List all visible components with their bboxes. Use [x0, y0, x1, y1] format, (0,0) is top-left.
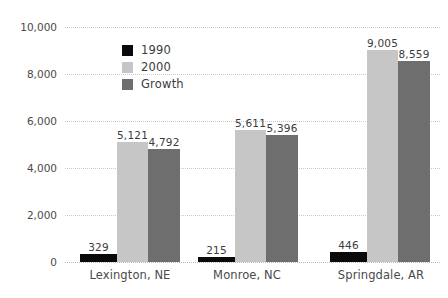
- y-axis-tick-label: 0: [0, 256, 57, 268]
- legend-label-1990: 1990: [141, 43, 171, 57]
- y-axis-tick-label: 2,000: [0, 209, 57, 221]
- legend-swatch-growth: [122, 79, 133, 90]
- legend-item-2000: 2000: [122, 59, 184, 75]
- y-axis-tick-label: 10,000: [0, 21, 57, 33]
- bar-2000-2: [367, 50, 398, 262]
- bar-value-label: 446: [338, 239, 359, 251]
- bar-1990-1: [198, 257, 235, 262]
- y-axis-tick-label: 4,000: [0, 162, 57, 174]
- bar-chart: 3295,1214,7922155,6115,3964469,0058,559 …: [0, 0, 448, 298]
- bar-growth-1: [266, 135, 298, 262]
- bar-growth-0: [148, 149, 180, 262]
- gridline: [65, 262, 440, 263]
- bar-value-label: 215: [206, 244, 227, 256]
- x-axis-category-label: Springdale, AR: [338, 268, 424, 282]
- legend-item-growth: Growth: [122, 76, 184, 92]
- legend-item-1990: 1990: [122, 42, 184, 58]
- legend-label-2000: 2000: [141, 60, 171, 74]
- bar-value-label: 8,559: [398, 48, 429, 60]
- legend-swatch-1990: [122, 45, 133, 56]
- bar-2000-1: [235, 130, 266, 262]
- bar-2000-0: [117, 142, 148, 262]
- bar-value-label: 9,005: [367, 37, 398, 49]
- bar-value-label: 329: [88, 241, 109, 253]
- y-axis-tick-label: 8,000: [0, 68, 57, 80]
- bar-value-label: 5,121: [117, 129, 148, 141]
- bar-value-label: 5,396: [266, 122, 297, 134]
- y-axis-tick-label: 6,000: [0, 115, 57, 127]
- bar-value-label: 5,611: [235, 117, 266, 129]
- bar-1990-0: [80, 254, 117, 262]
- legend-label-growth: Growth: [141, 77, 184, 91]
- x-axis-category-label: Monroe, NC: [213, 268, 281, 282]
- chart-legend: 1990 2000 Growth: [122, 42, 184, 93]
- bar-1990-2: [330, 252, 367, 262]
- bar-value-label: 4,792: [148, 136, 179, 148]
- x-axis-category-label: Lexington, NE: [90, 268, 171, 282]
- bar-growth-2: [398, 61, 430, 262]
- gridline: [65, 27, 440, 28]
- legend-swatch-2000: [122, 62, 133, 73]
